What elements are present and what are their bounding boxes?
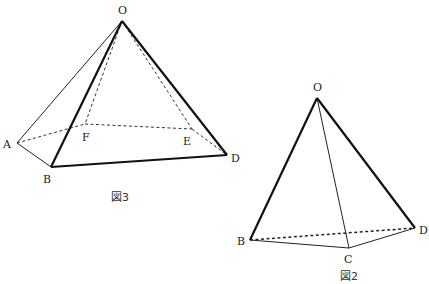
label-B: B xyxy=(43,173,51,186)
edge-BC xyxy=(250,240,349,248)
edge-OD xyxy=(122,21,227,155)
figure-3: O A B F E D 図3 xyxy=(2,4,240,204)
edge-OF xyxy=(85,21,122,124)
geometry-figures: O A B F E D 図3 O B C D 図2 xyxy=(0,0,429,284)
label-D: D xyxy=(231,152,240,165)
label-C: C xyxy=(344,253,352,266)
edge-OA xyxy=(17,21,122,143)
label-A: A xyxy=(2,138,12,151)
label-E: E xyxy=(183,135,191,148)
label-F: F xyxy=(82,131,90,144)
label-D: D xyxy=(419,224,428,237)
caption-figure-3: 図3 xyxy=(111,191,129,204)
edge-AB xyxy=(17,143,51,167)
label-O: O xyxy=(118,4,127,17)
edge-FE xyxy=(85,124,192,129)
edge-BD xyxy=(250,228,415,240)
diagram-canvas: O A B F E D 図3 O B C D 図2 xyxy=(0,0,429,284)
label-B: B xyxy=(237,235,245,248)
edge-OB xyxy=(250,98,317,240)
edge-OD xyxy=(317,98,415,228)
edge-BD xyxy=(51,155,227,167)
edge-OE xyxy=(122,21,192,129)
edge-AF xyxy=(17,124,85,143)
label-O: O xyxy=(313,81,322,94)
figure-2: O B C D 図2 xyxy=(237,81,428,283)
caption-figure-2: 図2 xyxy=(340,270,358,283)
edge-OB xyxy=(51,21,122,167)
